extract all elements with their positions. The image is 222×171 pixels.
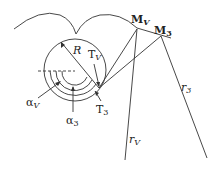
diagram-canvas: MV M3 R TV T3 αV α3 r3 rV xyxy=(0,0,222,171)
inner-arc-3 xyxy=(62,71,87,85)
tangent-to-M3 xyxy=(99,36,161,88)
label-M-V: MV xyxy=(131,14,149,25)
label-r-V: rV xyxy=(129,134,140,145)
inner-arc-2 xyxy=(56,71,92,91)
label-alpha-V: αV xyxy=(26,97,39,108)
label-M-3: M3 xyxy=(154,25,172,36)
arrowhead-alpha3 xyxy=(71,86,75,91)
label-r-3: r3 xyxy=(181,82,191,93)
label-T-V: TV xyxy=(88,49,101,60)
left-arc xyxy=(14,13,76,34)
tangent-to-MV xyxy=(99,29,137,88)
arrowhead-R xyxy=(61,42,65,48)
label-R: R xyxy=(73,45,81,56)
label-T-3: T3 xyxy=(96,104,108,115)
r3-line xyxy=(161,36,207,158)
label-alpha-3: α3 xyxy=(66,115,79,126)
